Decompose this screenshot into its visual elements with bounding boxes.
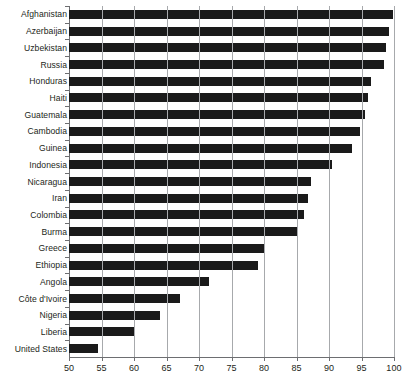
- bar: [69, 294, 180, 303]
- x-tick-90: [329, 357, 330, 361]
- y-tick: [65, 173, 69, 174]
- x-tick-label-65: 65: [152, 363, 182, 374]
- bar: [69, 311, 160, 320]
- bar: [69, 261, 258, 270]
- y-tick: [65, 223, 69, 224]
- x-tick-label-60: 60: [119, 363, 149, 374]
- y-tick: [65, 90, 69, 91]
- category-label: Côte d'Ivoire: [18, 294, 67, 304]
- x-tick-55: [102, 357, 103, 361]
- y-tick: [65, 207, 69, 208]
- bar: [69, 127, 360, 136]
- category-label: Honduras: [29, 76, 67, 86]
- category-label: Colombia: [30, 210, 67, 220]
- category-label: Russia: [40, 60, 67, 70]
- gridline-55: [102, 6, 103, 357]
- x-tick-65: [167, 357, 168, 361]
- category-label: Angola: [40, 277, 67, 287]
- bar: [69, 344, 98, 353]
- category-label: Afghanistan: [21, 9, 67, 19]
- category-label: United States: [15, 344, 67, 354]
- gridline-80: [264, 6, 265, 357]
- x-tick-label-75: 75: [217, 363, 247, 374]
- gridline-95: [362, 6, 363, 357]
- gridline-70: [199, 6, 200, 357]
- bar: [69, 60, 384, 69]
- x-tick-label-90: 90: [314, 363, 344, 374]
- x-tick-50: [69, 357, 70, 361]
- y-tick: [65, 140, 69, 141]
- y-tick: [65, 273, 69, 274]
- category-label: Guinea: [39, 143, 67, 153]
- category-label: Indonesia: [29, 160, 67, 170]
- bar: [69, 93, 368, 102]
- x-tick-75: [232, 357, 233, 361]
- x-tick-label-50: 50: [54, 363, 84, 374]
- gridline-60: [134, 6, 135, 357]
- bar: [69, 277, 209, 286]
- gridline-85: [297, 6, 298, 357]
- category-label: Uzbekistan: [24, 43, 67, 53]
- bar: [69, 77, 371, 86]
- x-tick-label-55: 55: [87, 363, 117, 374]
- category-label: Guatemala: [25, 110, 68, 120]
- bar: [69, 210, 304, 219]
- x-tick-100: [394, 357, 395, 361]
- y-tick: [65, 23, 69, 24]
- y-tick: [65, 340, 69, 341]
- x-tick-70: [199, 357, 200, 361]
- y-tick: [65, 73, 69, 74]
- category-label: Azerbaijan: [26, 26, 67, 36]
- gridline-75: [232, 6, 233, 357]
- y-tick: [65, 257, 69, 258]
- y-tick: [65, 190, 69, 191]
- y-tick: [65, 307, 69, 308]
- gridline-100: [394, 6, 395, 357]
- category-label: Liberia: [41, 327, 67, 337]
- x-tick-label-85: 85: [282, 363, 312, 374]
- y-tick: [65, 290, 69, 291]
- bar: [69, 110, 365, 119]
- x-tick-label-95: 95: [347, 363, 377, 374]
- y-tick: [65, 106, 69, 107]
- gridline-90: [329, 6, 330, 357]
- x-tick-85: [297, 357, 298, 361]
- category-label: Cambodia: [27, 126, 67, 136]
- bar: [69, 177, 311, 186]
- gridline-65: [167, 6, 168, 357]
- bar: [69, 144, 352, 153]
- y-tick: [65, 123, 69, 124]
- x-tick-label-80: 80: [249, 363, 279, 374]
- category-label: Ethiopia: [36, 260, 67, 270]
- x-tick-60: [134, 357, 135, 361]
- category-label: Greece: [39, 243, 67, 253]
- y-tick: [65, 240, 69, 241]
- category-label: Iran: [52, 193, 67, 203]
- y-tick: [65, 56, 69, 57]
- y-tick: [65, 6, 69, 7]
- bar: [69, 160, 332, 169]
- x-tick-95: [362, 357, 363, 361]
- category-label: Haiti: [50, 93, 67, 103]
- bar: [69, 194, 308, 203]
- y-tick: [65, 324, 69, 325]
- category-label: Burma: [41, 227, 67, 237]
- x-tick-label-100: 100: [379, 363, 409, 374]
- y-tick: [65, 156, 69, 157]
- x-tick-80: [264, 357, 265, 361]
- bar: [69, 43, 386, 52]
- x-tick-label-70: 70: [184, 363, 214, 374]
- category-label: Nicaragua: [27, 177, 67, 187]
- bar: [69, 27, 389, 36]
- category-label: Nigeria: [39, 310, 67, 320]
- bar-chart: 50556065707580859095100 AfghanistanAzerb…: [0, 0, 416, 386]
- y-tick: [65, 39, 69, 40]
